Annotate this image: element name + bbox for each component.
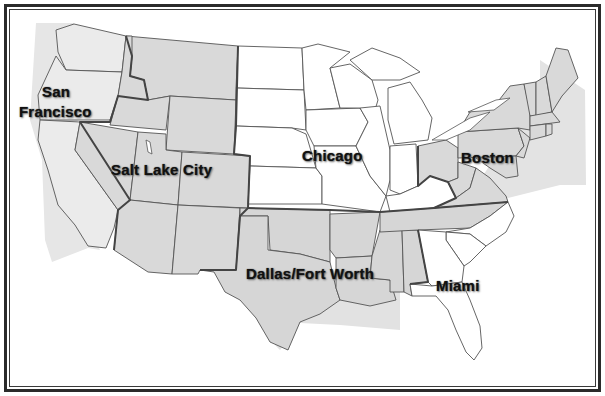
label-dallas-fort-worth: Dallas/Fort Worth: [246, 265, 374, 282]
state-ar: [330, 212, 380, 258]
state-sd: [236, 88, 306, 130]
region-chicago[interactable]: [234, 44, 456, 212]
state-az: [114, 200, 178, 274]
label-salt-lake-city: Salt Lake City: [111, 161, 212, 178]
state-nd: [236, 46, 304, 90]
us-region-map: [0, 0, 605, 396]
label-miami: Miami: [436, 277, 480, 294]
state-wy: [166, 96, 236, 154]
label-chicago: Chicago: [302, 147, 363, 164]
state-ks: [248, 166, 322, 204]
label-boston: Boston: [461, 149, 514, 166]
state-ri: [546, 124, 552, 136]
state-nm: [172, 205, 240, 274]
state-in: [390, 144, 418, 194]
state-wa: [56, 24, 126, 72]
label-san-francisco-line1: San: [42, 83, 70, 100]
label-san-francisco-line2: Francisco: [19, 103, 92, 120]
state-mi: [388, 82, 432, 144]
